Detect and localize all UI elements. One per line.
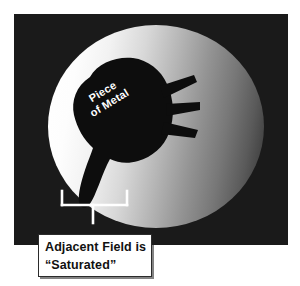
callout-line-1: Adjacent Field is xyxy=(45,238,146,256)
callout-textbox: Adjacent Field is “Saturated” xyxy=(38,234,152,277)
figure-root: Piece of Metal Adjacent Field is xyxy=(0,0,300,286)
callout-line-2: “Saturated” xyxy=(45,256,146,274)
photo-frame: Piece of Metal xyxy=(14,14,288,245)
saturation-extent-brace xyxy=(14,14,288,245)
